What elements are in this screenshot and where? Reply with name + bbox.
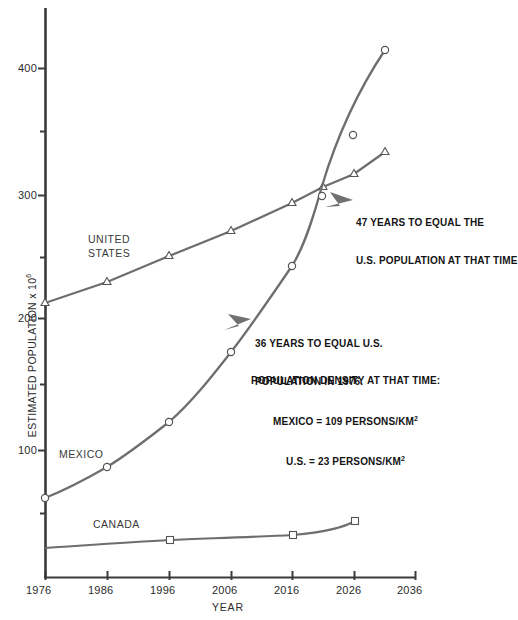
x-tick-label-2006: 2006 <box>212 584 237 596</box>
series-label-mexico: MEXICO <box>59 448 103 460</box>
y-axis-title: ESTIMATED POPULATION x 106 <box>13 274 50 450</box>
mexico-marker <box>349 131 356 138</box>
annotation-population-density: POPULATION DENSITY AT THAT TIME: MEXICO … <box>251 350 440 494</box>
annotation-density-mexico-exponent: 2 <box>414 415 418 422</box>
x-tick-label-2036: 2036 <box>397 584 422 596</box>
x-axis-title: YEAR <box>212 601 244 613</box>
annotation-density-mexico-text: MEXICO = 109 PERSONS/KM <box>273 416 414 427</box>
x-tick-label-2016: 2016 <box>274 584 299 596</box>
annotation-density-line2: MEXICO = 109 PERSONS/KM2 <box>251 413 440 429</box>
us-markers <box>41 148 389 306</box>
mexico-marker <box>41 494 48 501</box>
mexico-marker <box>288 262 295 269</box>
mexico-marker <box>103 463 110 470</box>
x-tick-label-1986: 1986 <box>88 584 113 596</box>
canada-line <box>45 521 355 548</box>
annotation-density-line1: POPULATION DENSITY AT THAT TIME: <box>251 375 440 388</box>
annotation-47-years-line1: 47 YEARS TO EQUAL THE <box>356 217 518 230</box>
series-label-united-states-line2: STATES <box>88 247 130 259</box>
x-tick-label-2026: 2026 <box>336 584 361 596</box>
annotation-arrows <box>224 192 353 330</box>
us-marker <box>381 148 389 155</box>
annotation-density-us-text: U.S. = 23 PERSONS/KM <box>286 457 401 468</box>
arrow-47-years-icon <box>325 192 353 207</box>
y-axis-title-text: ESTIMATED POPULATION x 10 <box>26 278 38 437</box>
mexico-marker <box>381 46 388 53</box>
arrow-36-years-icon <box>224 314 251 330</box>
y-tick-label-400: 400 <box>18 62 37 74</box>
series-label-united-states-line1: UNITED <box>88 233 130 245</box>
annotation-density-line3: U.S. = 23 PERSONS/KM2 <box>251 453 440 469</box>
annotation-47-years: 47 YEARS TO EQUAL THE U.S. POPULATION AT… <box>356 192 518 292</box>
x-ticks <box>46 571 416 580</box>
x-tick-label-1996: 1996 <box>150 584 175 596</box>
mexico-marker <box>227 348 234 355</box>
series-united-states <box>41 148 389 306</box>
series-label-canada: CANADA <box>93 518 140 530</box>
annotation-47-years-line2: U.S. POPULATION AT THAT TIME <box>356 255 518 268</box>
canada-marker <box>290 532 297 539</box>
us-line <box>45 152 385 303</box>
canada-marker <box>167 537 174 544</box>
y-axis-title-exponent: 6 <box>25 274 32 278</box>
annotation-density-us-exponent: 2 <box>401 455 405 462</box>
mexico-marker <box>318 192 325 199</box>
y-tick-label-300: 300 <box>18 189 37 201</box>
canada-marker <box>352 518 359 525</box>
mexico-marker <box>165 418 172 425</box>
x-tick-label-1976: 1976 <box>26 584 51 596</box>
annotation-36-years-line1: 36 YEARS TO EQUAL U.S. <box>255 338 383 351</box>
